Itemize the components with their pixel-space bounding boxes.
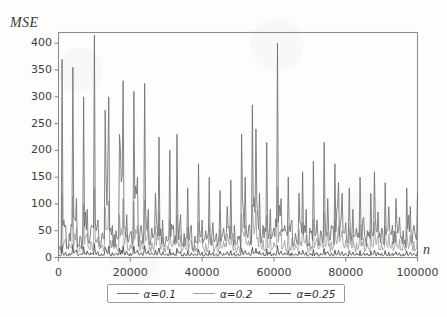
x-tick-label: 80000 (311, 266, 381, 279)
legend-entry[interactable]: α=0.2 (193, 288, 252, 300)
y-tick-label: 350 (18, 63, 52, 76)
y-tick-label: 250 (18, 117, 52, 130)
x-tick-label: 60000 (239, 266, 309, 279)
y-tick-label: 150 (18, 170, 52, 183)
y-tick-label: 50 (18, 224, 52, 237)
legend-entry[interactable]: α=0.1 (117, 288, 176, 300)
legend-label: α=0.2 (220, 288, 252, 300)
mse-vs-n-chart: MSE n 050100150200250300350400 020000400… (0, 0, 447, 317)
legend-label: α=0.25 (296, 288, 335, 300)
x-tick-label: 0 (24, 266, 94, 279)
legend-line-swatch (269, 293, 291, 294)
x-tick-label: 40000 (167, 266, 237, 279)
legend-line-swatch (117, 293, 139, 294)
y-tick-label: 400 (18, 36, 52, 49)
legend-label: α=0.1 (144, 288, 176, 300)
legend-entry[interactable]: α=0.25 (269, 288, 335, 300)
chart-legend[interactable]: α=0.1α=0.2α=0.25 (107, 284, 345, 303)
x-tick-label: 100000 (383, 266, 447, 279)
y-tick-label: 200 (18, 143, 52, 156)
y-tick-label: 0 (18, 251, 52, 264)
y-tick-label: 300 (18, 90, 52, 103)
y-tick-label: 100 (18, 197, 52, 210)
legend-line-swatch (193, 293, 215, 294)
x-tick-label: 20000 (95, 266, 165, 279)
